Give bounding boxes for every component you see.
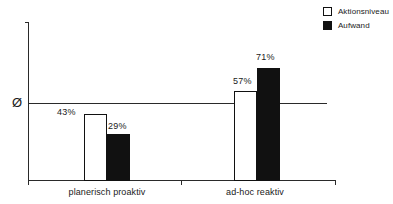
bar-chart: Aktionsniveau Aufwand Ø 43% 29% 57% 71% …	[0, 0, 393, 204]
x-axis-tick-end	[335, 180, 336, 185]
bar-aufwand-planerisch-proaktiv	[107, 134, 130, 181]
value-label-aufwand-ad-hoc-reaktiv: 71%	[256, 52, 275, 63]
plot-area: Ø 43% 29% 57% 71% planerisch proaktiv ad…	[0, 0, 393, 204]
y-axis-line	[28, 22, 29, 181]
x-axis-category-label-planerisch-proaktiv: planerisch proaktiv	[62, 186, 152, 198]
y-axis-top-tick	[25, 22, 29, 23]
x-axis-tick-start	[28, 180, 29, 185]
x-axis-line	[28, 180, 336, 181]
bar-aktionsniveau-planerisch-proaktiv	[84, 114, 107, 181]
value-label-aufwand-planerisch-proaktiv: 29%	[108, 121, 127, 132]
value-label-aktionsniveau-ad-hoc-reaktiv: 57%	[233, 76, 252, 87]
value-label-aktionsniveau-planerisch-proaktiv: 43%	[57, 107, 76, 118]
bar-aufwand-ad-hoc-reaktiv	[257, 68, 280, 181]
x-axis-tick-middle	[181, 180, 182, 185]
x-axis-category-label-ad-hoc-reaktiv: ad-hoc reaktiv	[210, 186, 300, 198]
average-symbol-label: Ø	[12, 95, 22, 111]
average-reference-line	[28, 103, 327, 104]
bar-aktionsniveau-ad-hoc-reaktiv	[234, 91, 257, 181]
